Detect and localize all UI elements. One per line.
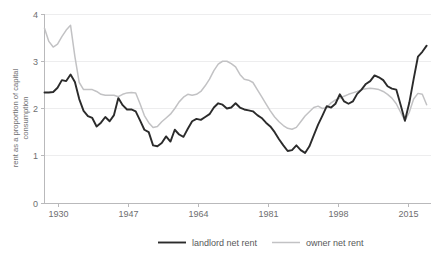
y-axis-title: rent as a proportion of capital consumpt… (11, 69, 30, 168)
x-tick-label-1981: 1981 (258, 209, 278, 219)
gridlines (44, 14, 431, 156)
y-axis-title-line2: consumption (21, 96, 30, 139)
y-tick-label-4: 4 (33, 10, 38, 20)
y-axis: 4 3 2 1 0 (33, 10, 45, 209)
y-tick-label-0: 0 (33, 199, 38, 209)
legend-label-owner-net-rent[interactable]: owner net rent (306, 238, 364, 248)
legend-label-landlord-net-rent[interactable]: landlord net rent (192, 238, 258, 248)
line-chart: rent as a proportion of capital consumpt… (0, 0, 435, 255)
x-tick-label-1998: 1998 (328, 209, 348, 219)
x-axis: 1930 1947 1964 1981 1998 2015 (45, 204, 432, 220)
y-axis-title-line1: rent as a proportion of capital (11, 69, 20, 168)
legend: landlord net rent owner net rent (158, 238, 364, 248)
x-tick-label-1947: 1947 (118, 209, 138, 219)
y-tick-label-2: 2 (33, 104, 38, 114)
y-tick-label-3: 3 (33, 57, 38, 67)
series-line-owner-net-rent (45, 25, 427, 129)
y-tick-label-1: 1 (33, 151, 38, 161)
x-tick-label-1964: 1964 (188, 209, 208, 219)
x-tick-label-2015: 2015 (398, 209, 418, 219)
x-tick-label-1930: 1930 (48, 209, 68, 219)
chart-container: rent as a proportion of capital consumpt… (0, 0, 435, 255)
series-group (45, 25, 427, 153)
